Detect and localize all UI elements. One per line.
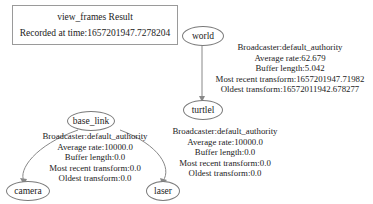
most-recent-transform-text: Most recent transform:1657201947.71982	[210, 74, 370, 85]
broadcaster-text: Broadcaster:default_authority	[25, 131, 165, 142]
node-base-link[interactable]: base_link	[67, 111, 115, 131]
oldest-transform-text: Oldest transform:16572011942.678277	[210, 84, 370, 95]
most-recent-transform-text: Most recent transform:0.0	[155, 158, 295, 169]
buffer-length-text: Buffer length:5.042	[210, 63, 370, 74]
average-rate-text: Average rate:10000.0	[155, 137, 295, 148]
average-rate-text: Average rate:62.679	[210, 53, 370, 64]
edge-label-base-link: Broadcaster:default_authority Average ra…	[25, 131, 165, 184]
broadcaster-text: Broadcaster:default_authority	[210, 42, 370, 53]
buffer-length-text: Buffer length:0.0	[155, 147, 295, 158]
oldest-transform-text: Oldest transform:0.0	[25, 173, 165, 184]
node-camera[interactable]: camera	[6, 181, 50, 201]
buffer-length-text: Buffer length:0.0	[25, 152, 165, 163]
average-rate-text: Average rate:10000.0	[25, 142, 165, 153]
legend-title: view_frames Result	[13, 12, 177, 22]
node-turtle[interactable]: turtlel	[183, 100, 223, 120]
most-recent-transform-text: Most recent transform:0.0	[25, 163, 165, 174]
node-laser[interactable]: laser	[146, 181, 180, 201]
legend-recorded-time: Recorded at time:1657201947.7278204	[13, 28, 177, 38]
broadcaster-text: Broadcaster:default_authority	[155, 126, 295, 137]
edge-label-world-turtle: Broadcaster:default_authority Average ra…	[210, 42, 370, 95]
oldest-transform-text: Oldest transform:0.0	[155, 168, 295, 179]
edge-label-turtle: Broadcaster:default_authority Average ra…	[155, 126, 295, 179]
legend-box: view_frames Result Recorded at time:1657…	[12, 5, 178, 45]
